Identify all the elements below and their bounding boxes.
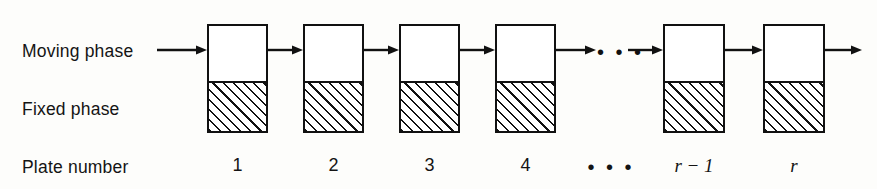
- plate-model-diagram: Moving phase Fixed phase Plate number • …: [0, 0, 877, 189]
- row-label-fixed-phase: Fixed phase: [22, 99, 120, 120]
- plate-box: [763, 24, 825, 133]
- plate-fixed-phase-cell: [763, 82, 825, 133]
- plate-fixed-phase-cell: [207, 82, 268, 133]
- arrow-3-to-4: [460, 44, 495, 56]
- arrow-r1-to-r: [725, 44, 763, 56]
- plate-number-label: r − 1: [674, 155, 713, 177]
- plate-number-label: r: [790, 155, 797, 177]
- inlet-arrow: [157, 44, 207, 56]
- flow-ellipsis-icon: • • •: [597, 42, 644, 62]
- arrow-4-to-gap: [556, 44, 596, 56]
- plate-moving-phase-cell: [763, 24, 825, 82]
- plate-moving-phase-cell: [663, 24, 725, 82]
- plate-box: [207, 24, 268, 133]
- plate-number-label: 3: [424, 155, 434, 176]
- plate-moving-phase-cell: [495, 24, 556, 82]
- plate-number-label: 1: [232, 155, 242, 176]
- plate-moving-phase-cell: [303, 24, 364, 82]
- plate-box: [663, 24, 725, 133]
- plate-fixed-phase-cell: [495, 82, 556, 133]
- plate-number-ellipsis: • • •: [587, 157, 634, 177]
- plate-number-label: 2: [328, 155, 338, 176]
- plate-moving-phase-cell: [207, 24, 268, 82]
- outlet-arrow: [825, 44, 862, 56]
- plate-fixed-phase-cell: [399, 82, 460, 133]
- arrow-1-to-2: [268, 44, 303, 56]
- row-label-moving-phase: Moving phase: [22, 41, 133, 62]
- plate-moving-phase-cell: [399, 24, 460, 82]
- plate-box: [399, 24, 460, 133]
- plate-number-label: 4: [520, 155, 530, 176]
- row-label-plate-number: Plate number: [22, 157, 129, 178]
- plate-fixed-phase-cell: [303, 82, 364, 133]
- arrow-2-to-3: [364, 44, 399, 56]
- plate-box: [495, 24, 556, 133]
- plate-fixed-phase-cell: [663, 82, 725, 133]
- plate-box: [303, 24, 364, 133]
